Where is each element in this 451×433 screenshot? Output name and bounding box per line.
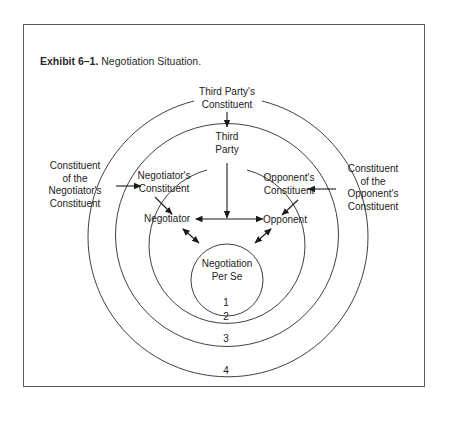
ring-1-label: 1 [223, 297, 229, 308]
node-opponents-constituent: Opponent's Constituent [264, 172, 315, 197]
node-negotiation-per-se: Negotiation Per Se [202, 258, 253, 283]
node-third-party-constituent: Third Party's Constituent [199, 86, 255, 111]
node-third-party: Third Party [215, 131, 238, 156]
ring-3-label: 3 [223, 333, 229, 344]
node-negotiator: Negotiator [144, 213, 190, 226]
node-opponent: Opponent [263, 214, 307, 227]
ring-2-label: 2 [223, 311, 229, 322]
node-constituent-of-negotiators-constituent: Constituent of the Negotiator's Constitu… [48, 160, 101, 210]
ring-4-label: 4 [223, 365, 229, 376]
node-negotiators-constituent: Negotiator's Constituent [137, 170, 190, 195]
node-constituent-of-opponents-constituent: Constituent of the Opponent's Constituen… [348, 163, 399, 213]
